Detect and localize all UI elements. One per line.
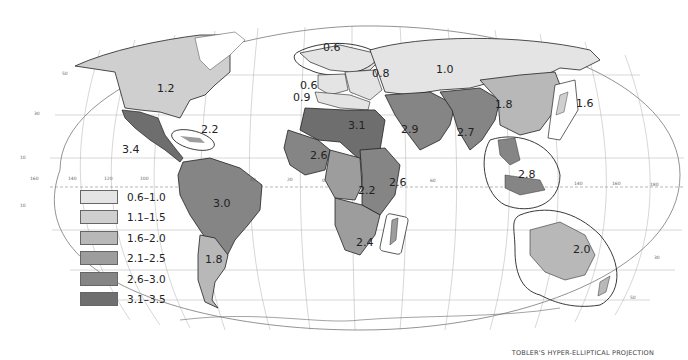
latitude-label: 50 <box>630 295 636 300</box>
region-middle-africa <box>325 150 362 200</box>
value-north-africa: 3.1 <box>348 120 366 131</box>
legend-swatch <box>80 210 118 224</box>
value-ussr: 1.0 <box>436 64 454 75</box>
value-eastern-europe: 0.8 <box>372 68 390 79</box>
latitude-label: 30 <box>654 255 660 260</box>
value-southern-europe: 0.9 <box>293 92 311 103</box>
value-east-asia: 1.8 <box>495 99 513 110</box>
legend-swatch <box>80 292 118 306</box>
legend-item: 1.1–1.5 <box>80 208 166 227</box>
latitude-label: 30 <box>34 111 40 116</box>
value-western-europe: 0.6 <box>300 80 318 91</box>
latitude-label: 10 <box>20 203 26 208</box>
region-new-zealand <box>598 276 610 296</box>
latitude-label: 10 <box>20 155 26 160</box>
legend-label: 2.1–2.5 <box>127 252 166 264</box>
longitude-label: 120 <box>104 176 113 181</box>
legend-label: 1.1–1.5 <box>127 211 166 223</box>
legend-swatch <box>80 231 118 245</box>
region-western-europe <box>318 74 348 95</box>
value-middle-south-asia: 2.7 <box>457 127 475 138</box>
legend-label: 3.1–3.5 <box>127 293 166 305</box>
value-north-america: 1.2 <box>157 83 175 94</box>
value-west-africa: 2.6 <box>310 150 328 161</box>
legend-swatch <box>80 251 118 265</box>
legend-item: 0.6–1.0 <box>80 187 166 206</box>
longitude-label: 160 <box>30 176 39 181</box>
longitude-label: 0 <box>322 178 325 183</box>
legend-label: 0.6–1.0 <box>127 191 166 203</box>
legend-item: 3.1–3.5 <box>80 290 166 309</box>
longitude-label: 60 <box>430 178 436 183</box>
value-central-america: 3.4 <box>122 144 140 155</box>
longitude-label: 40 <box>250 177 256 182</box>
map-legend: 0.6–1.0 1.1–1.5 1.6–2.0 2.1–2.5 2.6–3.0 … <box>80 187 166 310</box>
value-southwest-asia: 2.9 <box>401 124 419 135</box>
value-oceania: 2.0 <box>573 244 591 255</box>
legend-swatch <box>80 190 118 204</box>
longitude-label: 160 <box>612 181 621 186</box>
legend-label: 2.6–3.0 <box>127 273 166 285</box>
region-antarctica <box>180 308 560 321</box>
region-southwest-asia <box>385 92 455 150</box>
legend-item: 2.6–3.0 <box>80 269 166 288</box>
longitude-label: 140 <box>68 176 77 181</box>
value-east-africa: 2.6 <box>389 177 407 188</box>
longitude-label: 140 <box>574 181 583 186</box>
value-northern-europe: 0.6 <box>323 42 341 53</box>
longitude-label: 20 <box>287 177 293 182</box>
longitude-label: 180 <box>650 182 659 187</box>
value-southeast-asia: 2.8 <box>518 169 536 180</box>
value-southern-africa: 2.4 <box>356 237 374 248</box>
value-tropical-south-america: 3.0 <box>213 198 231 209</box>
value-middle-africa: 2.2 <box>358 185 376 196</box>
longitude-label: 100 <box>140 176 149 181</box>
region-southeast-asia <box>498 138 545 195</box>
value-temperate-south-america: 1.8 <box>205 254 223 265</box>
legend-swatch <box>80 272 118 286</box>
value-japan: 1.6 <box>576 98 594 109</box>
legend-label: 1.6–2.0 <box>127 232 166 244</box>
value-caribbean: 2.2 <box>201 124 219 135</box>
legend-item: 1.6–2.0 <box>80 228 166 247</box>
legend-item: 2.1–2.5 <box>80 249 166 268</box>
projection-caption: TOBLER'S HYPER-ELLIPTICAL PROJECTION <box>512 349 654 357</box>
latitude-label: 50 <box>62 71 68 76</box>
